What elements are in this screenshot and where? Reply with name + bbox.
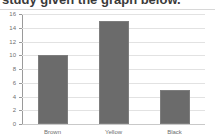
y-axis-tick-label: 4 bbox=[0, 94, 16, 100]
y-axis-tick-mark bbox=[19, 14, 22, 15]
y-axis-tick-mark bbox=[19, 55, 22, 56]
y-axis-tick-mark bbox=[19, 69, 22, 70]
y-axis-tick-label: 0 bbox=[0, 121, 16, 127]
gridline bbox=[22, 14, 205, 15]
y-axis-tick-label: 14 bbox=[0, 25, 16, 31]
y-axis-tick-label: 16 bbox=[0, 11, 16, 17]
bar-black bbox=[160, 90, 190, 124]
y-axis-tick-label: 8 bbox=[0, 66, 16, 72]
x-axis-label-brown: Brown bbox=[22, 129, 83, 136]
plot-area bbox=[22, 14, 205, 124]
x-axis-label-yellow: Yellow bbox=[83, 129, 144, 136]
bar-chart: 0246810121416BrownYellowBlack bbox=[0, 10, 215, 140]
y-axis-tick-label: 12 bbox=[0, 39, 16, 45]
header-text: study given the graph below. bbox=[2, 0, 181, 7]
header-band: study given the graph below. bbox=[0, 0, 215, 9]
y-axis-tick-mark bbox=[19, 83, 22, 84]
y-axis-tick-mark bbox=[19, 124, 22, 125]
y-axis-tick-label: 6 bbox=[0, 80, 16, 86]
y-axis-tick-mark bbox=[19, 110, 22, 111]
bar-brown bbox=[38, 55, 68, 124]
y-axis-tick-label: 10 bbox=[0, 52, 16, 58]
x-axis-label-black: Black bbox=[144, 129, 205, 136]
y-axis-tick-mark bbox=[19, 28, 22, 29]
gridline bbox=[22, 124, 205, 125]
bar-yellow bbox=[99, 21, 129, 124]
y-axis-tick-mark bbox=[19, 97, 22, 98]
y-axis-tick-label: 2 bbox=[0, 107, 16, 113]
y-axis-tick-mark bbox=[19, 42, 22, 43]
